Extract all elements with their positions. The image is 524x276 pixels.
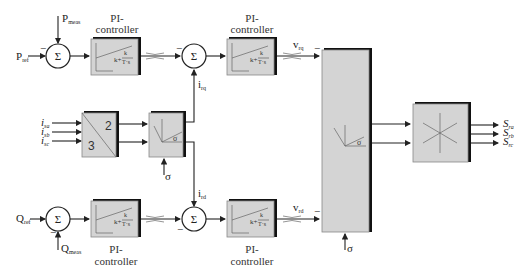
sigma-label: σ	[347, 242, 353, 254]
q-meas-label: Qmeas	[61, 242, 82, 255]
minus-sign: −	[314, 42, 320, 54]
pi-controller-q: k+ k T·s	[91, 199, 141, 237]
minus-sign: −	[314, 205, 320, 217]
pi-controller-id: k+ k T·s	[227, 199, 277, 237]
svg-text:T·s: T·s	[122, 59, 131, 65]
control-block-diagram: Pref − Pmeas Σ PI- controller k+ k T·s −…	[0, 0, 524, 276]
pi-label: PI-	[245, 243, 259, 255]
svm-modulator-block	[413, 102, 471, 162]
svg-text:3: 3	[88, 139, 95, 153]
svg-text:2: 2	[105, 119, 112, 133]
sum-junction-iq: Σ	[182, 44, 206, 68]
sum-junction-id: Σ	[182, 207, 206, 231]
inverse-rotation-block: σ	[322, 48, 372, 232]
svg-text:k: k	[124, 212, 127, 218]
pi-label: controller	[95, 255, 138, 267]
svg-text:T·s: T·s	[258, 59, 267, 65]
pi-label: PI-	[109, 243, 123, 255]
sigma-label: σ	[165, 170, 171, 182]
svg-text:σ: σ	[357, 138, 362, 147]
svg-text:k+: k+	[250, 218, 258, 226]
pi-label: controller	[231, 255, 274, 267]
svg-text:k+: k+	[250, 56, 258, 64]
minus-sign: −	[176, 42, 182, 54]
pi-label: controller	[231, 23, 274, 35]
svg-text:k: k	[124, 50, 127, 56]
pi-label: controller	[96, 23, 139, 35]
pi-controller-iq: k+ k T·s	[227, 37, 277, 75]
v-rq-label: vrq	[293, 38, 304, 51]
q-ref-label: Qref	[16, 212, 31, 225]
rotation-transform-block: σ	[149, 111, 186, 157]
svg-text:k: k	[260, 212, 263, 218]
svg-text:σ: σ	[173, 134, 178, 143]
minus-sign: −	[50, 226, 56, 238]
svg-text:k+: k+	[114, 56, 122, 64]
i-rd-label: ird	[198, 187, 206, 200]
sum-junction-p: Σ	[46, 44, 70, 68]
svg-text:Σ: Σ	[191, 50, 197, 62]
svg-text:Σ: Σ	[55, 213, 61, 225]
svg-text:k+: k+	[114, 218, 122, 226]
pi-controller-p: k+ k T·s	[91, 37, 141, 75]
p-ref-label: Pref	[16, 50, 29, 63]
minus-sign: −	[177, 223, 183, 235]
i-rq-label: irq	[198, 78, 206, 91]
v-rd-label: vrd	[293, 201, 304, 214]
svg-text:T·s: T·s	[122, 221, 131, 227]
svg-text:Σ: Σ	[55, 50, 61, 62]
svg-text:T·s: T·s	[258, 221, 267, 227]
abc-to-alphabeta-block: 2 3	[82, 111, 119, 157]
svg-text:Σ: Σ	[191, 213, 197, 225]
p-meas-label: Pmeas	[62, 12, 81, 25]
svg-text:k: k	[260, 50, 263, 56]
minus-sign: −	[40, 42, 46, 54]
